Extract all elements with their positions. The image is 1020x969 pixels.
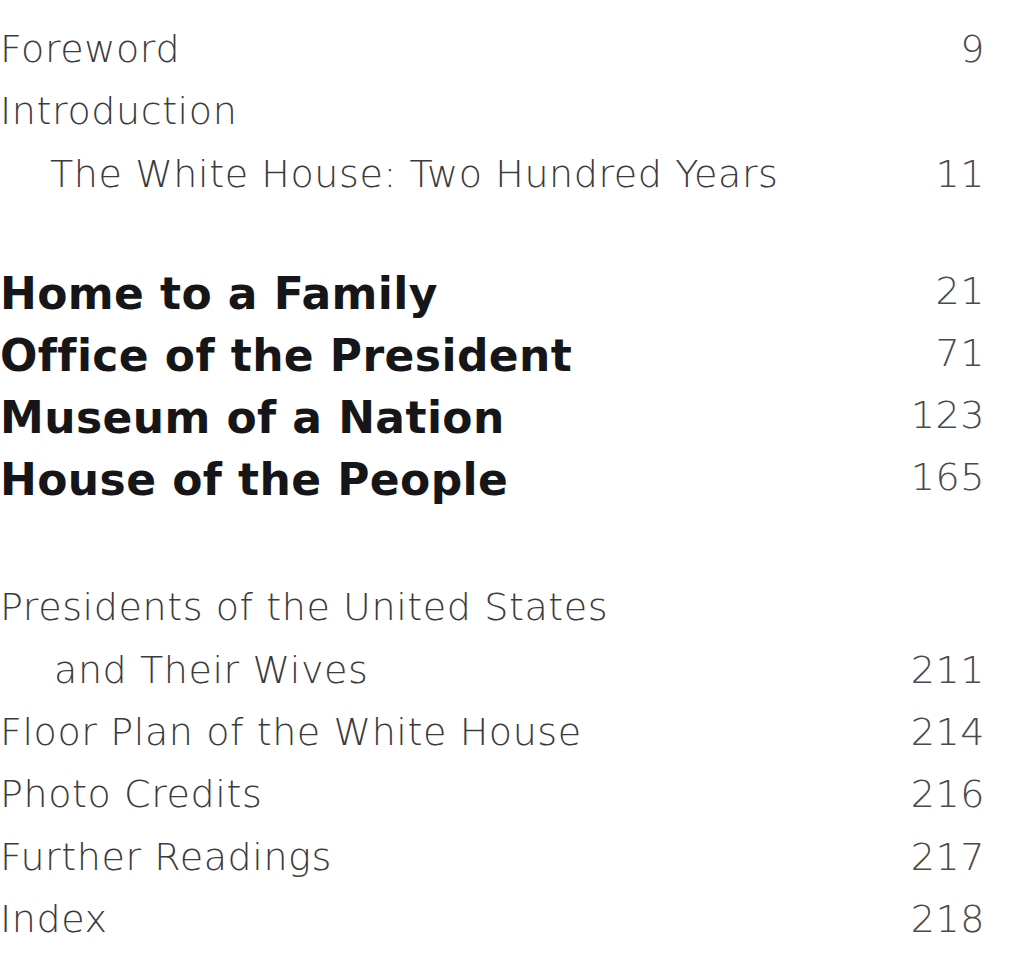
back-matter-entry-title: Photo Credits: [0, 775, 262, 813]
back-matter-entry-page-number: 216: [911, 775, 985, 813]
part-entry-title: Office of the President: [0, 334, 572, 378]
back-matter-entry-title: and Their Wives: [0, 651, 368, 689]
part-entry-title: House of the People: [0, 458, 508, 502]
table-of-contents-page: Foreword9IntroductionThe White House: Tw…: [0, 0, 1020, 969]
back-matter-entry-title: Further Readings: [0, 838, 332, 876]
part-entry-page-number: 21: [935, 272, 985, 310]
back-matter-entry-page-number: 218: [911, 900, 985, 938]
part-entry-title: Home to a Family: [0, 272, 438, 316]
front-matter-entry-title: Introduction: [0, 92, 237, 130]
back-matter-entry-page-number: 214: [911, 713, 985, 751]
back-matter-entry-title: Floor Plan of the White House: [0, 713, 582, 751]
front-matter-entry-title: The White House: Two Hundred Years: [0, 155, 779, 193]
front-matter-entry-page-number: 11: [935, 155, 985, 193]
back-matter-entry-page-number: 211: [911, 651, 985, 689]
part-entry-page-number: 123: [911, 396, 985, 434]
part-entry-title: Museum of a Nation: [0, 396, 505, 440]
part-entry-page-number: 165: [911, 458, 985, 496]
back-matter-entry-page-number: 217: [911, 838, 985, 876]
back-matter-entry-title: Presidents of the United States: [0, 588, 608, 626]
back-matter-entry-title: Index: [0, 900, 108, 938]
part-entry-page-number: 71: [935, 334, 985, 372]
front-matter-entry-title: Foreword: [0, 30, 180, 68]
front-matter-entry-page-number: 9: [960, 30, 985, 68]
